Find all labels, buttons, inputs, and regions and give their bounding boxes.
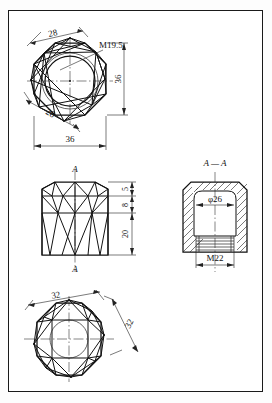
top-view-group: M19.5 28 28 bbox=[24, 27, 128, 150]
front-view-group: A A bbox=[42, 164, 136, 274]
bottom-view-dim-32-upper bbox=[25, 290, 104, 310]
front-view-mid-facets bbox=[42, 182, 108, 213]
section-view-group: A — A bbox=[183, 158, 247, 272]
section-view-hatch-left bbox=[183, 187, 203, 252]
front-view-dim-20-label: 20 bbox=[121, 230, 130, 238]
front-view-lower-facets bbox=[42, 213, 108, 255]
front-view-dim-8-label: 8 bbox=[121, 203, 130, 207]
drawing-canvas: M19.5 28 28 bbox=[0, 0, 272, 403]
section-view-dim-bore-label: φ26 bbox=[208, 194, 223, 204]
top-view-dim-28-upper-label: 28 bbox=[47, 27, 59, 39]
front-view-dim-5 bbox=[130, 182, 134, 196]
front-view-dim-5-label: 5 bbox=[121, 187, 130, 191]
front-view-dim-20 bbox=[130, 213, 134, 255]
top-view-thread-label: M19.5 bbox=[99, 40, 123, 50]
section-view-dim-thread-label: M22 bbox=[206, 253, 223, 263]
front-view-section-marker-bottom: A bbox=[71, 264, 78, 274]
top-view-dim-36-horizontal-label: 36 bbox=[66, 134, 76, 144]
bottom-view-dim-32-right-label: 32 bbox=[123, 317, 136, 330]
top-view-dim-36-vertical-label: 36 bbox=[113, 74, 123, 84]
bottom-view-dim-32-upper-label: 32 bbox=[51, 289, 62, 300]
section-view-hatch-right bbox=[237, 184, 247, 252]
front-view-section-marker-top: A bbox=[71, 164, 78, 174]
front-view-dim-8 bbox=[130, 196, 134, 213]
bottom-view-group: 32 32 bbox=[24, 289, 138, 382]
section-view-label: A — A bbox=[202, 158, 227, 168]
top-view-dim-28-lower-label: 28 bbox=[44, 107, 57, 120]
drawing-sheet: M19.5 28 28 bbox=[0, 0, 272, 403]
